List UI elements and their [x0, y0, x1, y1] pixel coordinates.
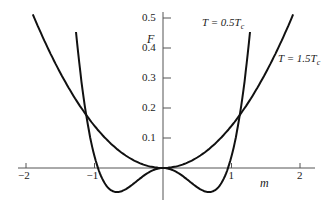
x-tick-label: 1 [229, 169, 235, 181]
x-tick-label: −1 [87, 169, 99, 181]
x-axis-label: m [260, 176, 269, 191]
y-tick-label: 0.2 [142, 101, 156, 113]
chart-canvas [0, 0, 333, 205]
y-tick-label: 0.3 [142, 71, 156, 83]
x-tick-label: −2 [18, 169, 30, 181]
legend-label-high-t: T = 1.5Tc [278, 52, 320, 67]
y-tick-label: 0.1 [142, 131, 156, 143]
x-tick-label: 2 [297, 169, 303, 181]
legend-label-low-t: T = 0.5Tc [202, 16, 244, 31]
axes [18, 12, 315, 200]
y-tick-label: 0.5 [142, 11, 156, 23]
y-axis-label: F [147, 32, 154, 47]
